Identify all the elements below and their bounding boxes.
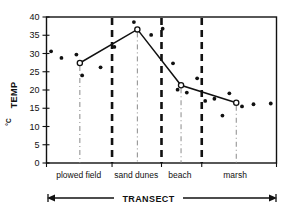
scatter-point	[149, 33, 153, 37]
zone-label: beach	[168, 170, 191, 180]
scatter-point	[221, 114, 225, 118]
y-tick-label: 5	[34, 140, 39, 150]
mean-marker	[234, 100, 239, 105]
chart-canvas: 0510152025303540 plowed fieldsand dunesb…	[0, 0, 297, 212]
zone-label: marsh	[223, 170, 247, 180]
scatter-point	[176, 88, 180, 92]
y-tick-label: 0	[34, 158, 39, 168]
y-tick-label: 35	[29, 30, 39, 40]
zone-divider-lines	[112, 18, 202, 163]
y-tick-label: 25	[29, 67, 39, 77]
scatter-point	[240, 105, 244, 109]
y-axis-tick-labels: 0510152025303540	[29, 12, 39, 168]
scatter-point	[112, 45, 116, 49]
zone-label: plowed field	[56, 170, 101, 180]
x-axis-title-text: TRANSECT	[122, 194, 174, 204]
transect-axis-bar: TRANSECT	[47, 194, 277, 204]
scatter-point	[132, 20, 136, 24]
zone-labels: plowed fieldsand dunesbeachmarsh	[56, 170, 247, 180]
y-axis-title-unit: °C	[5, 118, 12, 126]
y-tick-label: 20	[29, 85, 39, 95]
y-axis-title-text: TEMP	[9, 82, 19, 109]
mean-trend-line	[80, 29, 237, 102]
scatter-point	[161, 27, 165, 31]
mean-marker	[178, 83, 183, 88]
scatter-point	[195, 76, 199, 80]
mean-marker	[135, 27, 140, 32]
scatter-point	[213, 97, 217, 101]
scatter-point	[80, 74, 84, 78]
y-tick-label: 15	[29, 103, 39, 113]
scatter-point	[60, 56, 64, 60]
scatter-point	[269, 102, 273, 106]
scatter-point	[252, 102, 256, 106]
y-tick-label: 10	[29, 122, 39, 132]
scatter-point	[99, 65, 103, 69]
y-tick-label: 30	[29, 49, 39, 59]
scatter-point	[171, 61, 175, 65]
mean-marker	[77, 60, 82, 65]
sample-site-droplines	[80, 32, 236, 163]
scatter-point	[227, 91, 231, 95]
zone-label: sand dunes	[114, 170, 158, 180]
y-axis-title: TEMP °C	[5, 82, 19, 126]
scatter-point	[185, 91, 189, 95]
scatter-point	[203, 99, 207, 103]
y-tick-label: 40	[29, 12, 39, 22]
scatter-point	[75, 53, 79, 57]
scatter-point	[49, 49, 53, 53]
temperature-transect-figure: 0510152025303540 plowed fieldsand dunesb…	[0, 0, 297, 212]
